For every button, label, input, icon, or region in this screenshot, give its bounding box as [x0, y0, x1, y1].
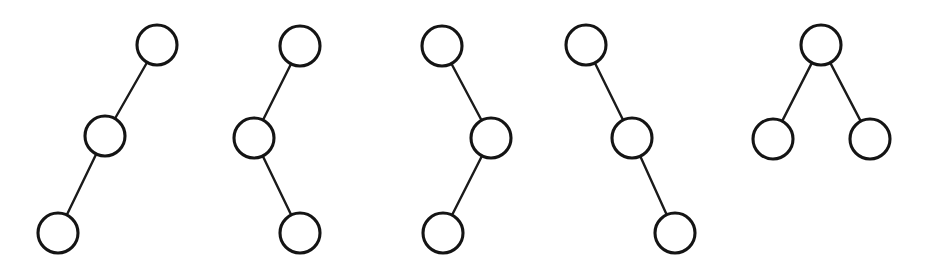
tree-5-nodes [753, 25, 890, 159]
tree-edge [451, 63, 482, 121]
tree-node-leaf [280, 213, 320, 253]
tree-node-left-child [753, 119, 793, 159]
tree-node-leaf [38, 213, 78, 253]
tree-diagram-svg [0, 0, 926, 273]
tree-edge [594, 62, 623, 121]
tree-3 [422, 26, 511, 253]
tree-edge [452, 155, 483, 216]
tree-edge [114, 62, 147, 120]
tree-node-middle [234, 118, 274, 158]
tree-edge [263, 63, 292, 121]
tree-3-nodes [422, 26, 511, 253]
tree-node-root [801, 25, 841, 65]
tree-node-middle [471, 118, 511, 158]
tree-2-nodes [234, 26, 320, 253]
tree-edge [830, 62, 861, 122]
tree-4-nodes [566, 25, 695, 253]
tree-node-middle [85, 116, 125, 156]
tree-4 [566, 25, 695, 253]
tree-node-leaf [655, 213, 695, 253]
tree-edge [262, 155, 291, 216]
tree-node-root [137, 25, 177, 65]
tree-node-leaf [423, 213, 463, 253]
tree-5-edges [782, 62, 862, 122]
tree-edge [640, 155, 667, 215]
trees-layer [38, 25, 890, 253]
tree-1-nodes [38, 25, 177, 253]
figure-canvas [0, 0, 926, 273]
tree-edge [782, 62, 813, 122]
tree-edge [66, 153, 96, 216]
tree-node-root [280, 26, 320, 66]
tree-node-root [566, 25, 606, 65]
tree-2 [234, 26, 320, 253]
tree-1 [38, 25, 177, 253]
tree-node-root [422, 26, 462, 66]
tree-node-right-child [850, 119, 890, 159]
tree-node-middle [612, 118, 652, 158]
tree-5 [753, 25, 890, 159]
